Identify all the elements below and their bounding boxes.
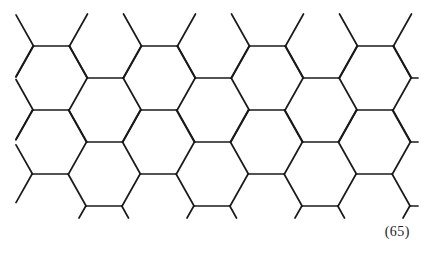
hex-edge xyxy=(176,142,194,174)
hex-edge xyxy=(284,142,302,174)
hex-edge xyxy=(394,14,412,46)
hex-edge xyxy=(403,206,410,218)
hex-edge xyxy=(16,46,33,77)
hex-edge xyxy=(123,142,141,174)
hex-edge xyxy=(177,78,195,110)
hex-edge xyxy=(69,142,87,174)
hex-edge xyxy=(393,46,411,78)
hex-edge xyxy=(393,78,411,110)
hex-edge xyxy=(340,14,358,46)
hex-edge xyxy=(338,174,356,206)
hex-edge xyxy=(392,174,410,206)
hex-edge xyxy=(79,206,86,218)
figure-number-label: (65) xyxy=(385,224,410,240)
hex-edge xyxy=(284,110,302,142)
hex-edge xyxy=(16,110,33,139)
hex-edge xyxy=(16,80,33,111)
hex-edge xyxy=(338,142,356,174)
hex-edge xyxy=(286,14,304,46)
hex-edge xyxy=(178,14,196,46)
hex-edge xyxy=(122,174,140,206)
hex-edge xyxy=(69,46,87,78)
hex-edge xyxy=(69,110,87,142)
hex-edge xyxy=(230,142,248,174)
hex-edge xyxy=(176,174,194,206)
hex-edge xyxy=(230,206,237,218)
hex-edge xyxy=(339,46,357,78)
hex-edge xyxy=(123,110,141,142)
hex-edge xyxy=(392,142,410,174)
hex-edge xyxy=(16,145,33,174)
hex-edge xyxy=(16,15,34,46)
hex-edge xyxy=(338,110,356,142)
hex-edge xyxy=(123,78,141,110)
hex-edge xyxy=(285,78,303,110)
hex-edge xyxy=(338,206,345,218)
hex-edge xyxy=(284,174,302,206)
hex-edge xyxy=(16,174,32,203)
hex-edge xyxy=(231,46,249,78)
hex-edge xyxy=(124,14,142,46)
hex-edge xyxy=(392,110,410,142)
hex-edge xyxy=(230,110,248,142)
honeycomb-diagram xyxy=(0,0,440,255)
hex-edge xyxy=(177,46,195,78)
hex-edge xyxy=(68,174,86,206)
hex-edge xyxy=(231,78,249,110)
hex-edge xyxy=(122,206,129,218)
hex-edge xyxy=(230,174,248,206)
hex-edge xyxy=(285,46,303,78)
hex-edge xyxy=(123,46,141,78)
hex-edge xyxy=(176,110,194,142)
hex-edge xyxy=(69,78,87,110)
hex-edge xyxy=(70,14,88,46)
hex-edge xyxy=(232,14,250,46)
hex-edge xyxy=(187,206,194,218)
hex-edge xyxy=(295,206,302,218)
hex-edge xyxy=(339,78,357,110)
